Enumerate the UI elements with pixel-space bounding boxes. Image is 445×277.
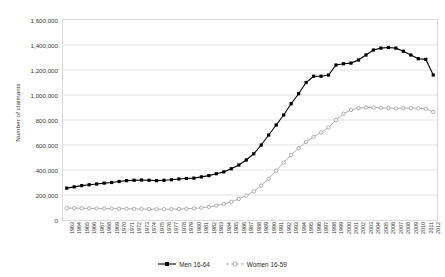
x-tick-label: 1990	[271, 222, 277, 234]
x-tick-label: 1976	[166, 222, 172, 234]
data-point-marker	[402, 106, 405, 109]
x-tick-label: 1969	[114, 222, 120, 234]
data-point-marker	[132, 207, 135, 210]
data-point-marker	[312, 135, 315, 138]
data-point-marker	[95, 182, 98, 185]
x-axis-tick-labels: 1963196419651966196719681969197019711972…	[62, 222, 438, 252]
x-tick-label: 1986	[241, 222, 247, 234]
legend-symbol-icon	[226, 260, 244, 268]
data-point-marker	[140, 178, 143, 181]
x-tick-label: 1978	[181, 222, 187, 234]
data-point-marker	[282, 161, 285, 164]
legend-entry[interactable]: Women 16-59	[226, 260, 287, 268]
x-tick-label: 1966	[91, 222, 97, 234]
data-point-marker	[409, 53, 412, 56]
data-point-marker	[260, 143, 263, 146]
data-point-marker	[110, 181, 113, 184]
x-tick-label: 1973	[144, 222, 150, 234]
data-point-marker	[289, 153, 292, 156]
x-tick-label: 1987	[248, 222, 254, 234]
gridlines	[63, 45, 437, 195]
x-tick-label: 1988	[256, 222, 262, 234]
data-point-marker	[260, 184, 263, 187]
data-point-marker	[73, 185, 76, 188]
legend-entry[interactable]: Men 16-64	[158, 260, 210, 268]
x-tick-label: 1985	[233, 222, 239, 234]
data-point-marker	[252, 152, 255, 155]
x-tick-label: 2001	[353, 222, 359, 234]
data-point-marker	[192, 177, 195, 180]
y-tick-label: 1,400,000	[30, 42, 58, 49]
data-point-marker	[125, 207, 128, 210]
y-tick-label: 1,200,000	[30, 67, 58, 74]
data-point-marker	[102, 207, 105, 210]
data-point-marker	[147, 207, 150, 210]
data-point-marker	[312, 75, 315, 78]
y-tick-label: 1,000,000	[30, 92, 58, 99]
data-point-marker	[155, 179, 158, 182]
plot-svg	[63, 20, 437, 220]
x-tick-label: 1977	[173, 222, 179, 234]
data-point-marker	[417, 107, 420, 110]
x-tick-label: 1989	[263, 222, 269, 234]
data-point-marker	[394, 107, 397, 110]
data-point-marker	[319, 131, 322, 134]
plot-area	[62, 19, 438, 221]
x-tick-label: 1971	[129, 222, 135, 234]
data-point-marker	[372, 48, 375, 51]
data-point-marker	[222, 170, 225, 173]
data-point-marker	[334, 63, 337, 66]
data-point-marker	[185, 177, 188, 180]
data-point-marker	[73, 206, 76, 209]
data-point-marker	[95, 207, 98, 210]
x-tick-label: 1974	[151, 222, 157, 234]
data-point-marker	[162, 179, 165, 182]
data-point-marker	[117, 207, 120, 210]
data-point-marker	[402, 50, 405, 53]
x-tick-label: 1998	[331, 222, 337, 234]
data-point-marker	[230, 167, 233, 170]
x-tick-label: 2007	[398, 222, 404, 234]
y-axis-title-text: Number of claimants	[14, 83, 21, 142]
x-tick-label: 1991	[278, 222, 284, 234]
series-layer	[65, 46, 435, 211]
x-tick-label: 2002	[360, 222, 366, 234]
x-tick-label: 1996	[316, 222, 322, 234]
data-point-marker	[379, 106, 382, 109]
data-point-marker	[177, 207, 180, 210]
data-point-marker	[200, 206, 203, 209]
data-point-marker	[215, 204, 218, 207]
data-point-marker	[417, 57, 420, 60]
data-point-marker	[65, 206, 68, 209]
data-point-marker	[170, 207, 173, 210]
y-tick-label: 0	[55, 217, 58, 224]
data-point-marker	[230, 200, 233, 203]
data-point-marker	[357, 106, 360, 109]
data-point-marker	[185, 207, 188, 210]
x-tick-label: 1972	[136, 222, 142, 234]
x-tick-label: 2011	[428, 222, 434, 234]
data-point-marker	[125, 179, 128, 182]
x-tick-label: 2003	[368, 222, 374, 234]
data-point-marker	[424, 58, 427, 61]
data-point-marker	[364, 53, 367, 56]
data-point-marker	[372, 106, 375, 109]
y-tick-label: 200,000	[36, 192, 58, 199]
x-tick-label: 1979	[188, 222, 194, 234]
x-tick-label: 1982	[211, 222, 217, 234]
data-point-marker	[342, 112, 345, 115]
data-point-marker	[147, 179, 150, 182]
x-tick-label: 2000	[346, 222, 352, 234]
data-point-marker	[305, 81, 308, 84]
data-point-marker	[103, 182, 106, 185]
data-point-marker	[409, 106, 412, 109]
data-point-marker	[118, 180, 121, 183]
y-tick-label: 600,000	[36, 142, 58, 149]
data-point-marker	[432, 110, 435, 113]
data-point-marker	[245, 194, 248, 197]
data-point-marker	[65, 187, 68, 190]
x-tick-label: 1995	[308, 222, 314, 234]
x-tick-label: 1964	[76, 222, 82, 234]
series-line	[67, 48, 434, 189]
data-series	[65, 46, 435, 190]
